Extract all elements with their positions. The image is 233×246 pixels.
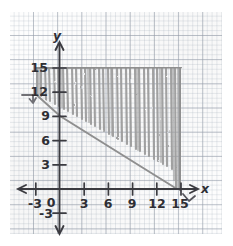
y-tick-label-9: 9: [41, 108, 50, 123]
boundary-diagonal: [36, 94, 178, 189]
y-tick-label-6: 6: [41, 133, 50, 148]
origin-label: 0: [47, 195, 56, 210]
tick-labels: y x 15 12 9 6 3 -3 -3 0 3 6 9 12 15: [28, 28, 210, 221]
coordinate-plane: y x 15 12 9 6 3 -3 -3 0 3 6 9 12 15: [0, 0, 233, 246]
boundary-right-x15: [180, 68, 181, 190]
x-tick-label-12: 12: [148, 196, 165, 211]
x-tick-label-9: 9: [128, 196, 137, 211]
x-tick-label-6: 6: [104, 196, 113, 211]
shaded-region: [37, 66, 180, 191]
y-tick-label-12: 12: [31, 84, 48, 99]
y-tick-label-15: 15: [31, 60, 48, 75]
y-label-axis: y: [53, 28, 62, 43]
y-tick-label-3: 3: [41, 157, 50, 172]
x-tick-label-neg3: -3: [28, 196, 42, 211]
x-label-axis: x: [200, 181, 210, 196]
x-tick-label-15: 15: [171, 196, 188, 211]
x-tick-label-3: 3: [80, 196, 89, 211]
graph-screenshot: y x 15 12 9 6 3 -3 -3 0 3 6 9 12 15: [0, 0, 233, 246]
